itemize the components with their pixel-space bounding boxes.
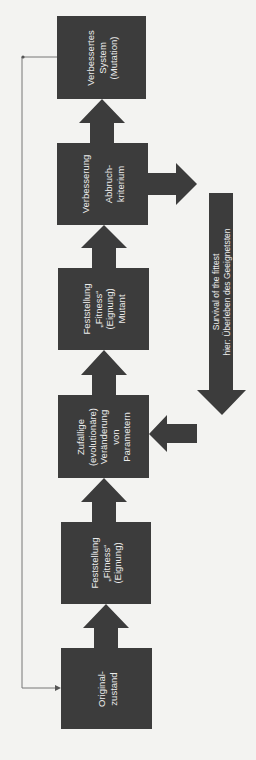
arrow-s5-s6-icon bbox=[79, 99, 125, 143]
arrow-into-s3-icon bbox=[149, 415, 197, 452]
step-label: Verbessertes System (Mutation) bbox=[84, 30, 119, 85]
arrow-s4-s5-icon bbox=[81, 225, 127, 268]
arrow-exit-right-icon bbox=[148, 163, 197, 205]
step-originalzustand: Original- zustand bbox=[61, 648, 152, 729]
connectors bbox=[0, 0, 256, 760]
feedback-line bbox=[22, 57, 58, 688]
survival-of-the-fittest-label: Survival of the fittest hier: Überleben … bbox=[211, 228, 232, 355]
feedback-line-corner-dot bbox=[21, 55, 24, 58]
step-label: Original- zustand bbox=[95, 671, 118, 707]
step-label: Feststellung „Fitness“ (Eignung) bbox=[89, 537, 124, 588]
arrow-s2-s3-icon bbox=[81, 478, 127, 522]
step-feststellung-fitness-mutant: Feststellung „Fitness“ (Eignung) Mutant bbox=[58, 268, 149, 350]
step-feststellung-fitness: Feststellung „Fitness“ (Eignung) bbox=[61, 522, 151, 604]
step-label: Verbesserung Abbruch- kriterium bbox=[80, 155, 126, 214]
step-verbesserung-abbruchkriterium: Verbesserung Abbruch- kriterium bbox=[57, 143, 148, 225]
step-zufaellige-veraenderung: Zufällige (evolutionäre) Veränderung von… bbox=[58, 395, 149, 478]
step-verbessertes-system: Verbessertes System (Mutation) bbox=[57, 16, 146, 99]
arrow-s3-s4-icon bbox=[81, 350, 127, 395]
step-label: Feststellung „Fitness“ (Eignung) Mutant bbox=[81, 283, 127, 334]
step-label: Zufällige (evolutionäre) Veränderung von… bbox=[75, 407, 133, 465]
arrow-s1-s2-icon bbox=[83, 604, 129, 648]
